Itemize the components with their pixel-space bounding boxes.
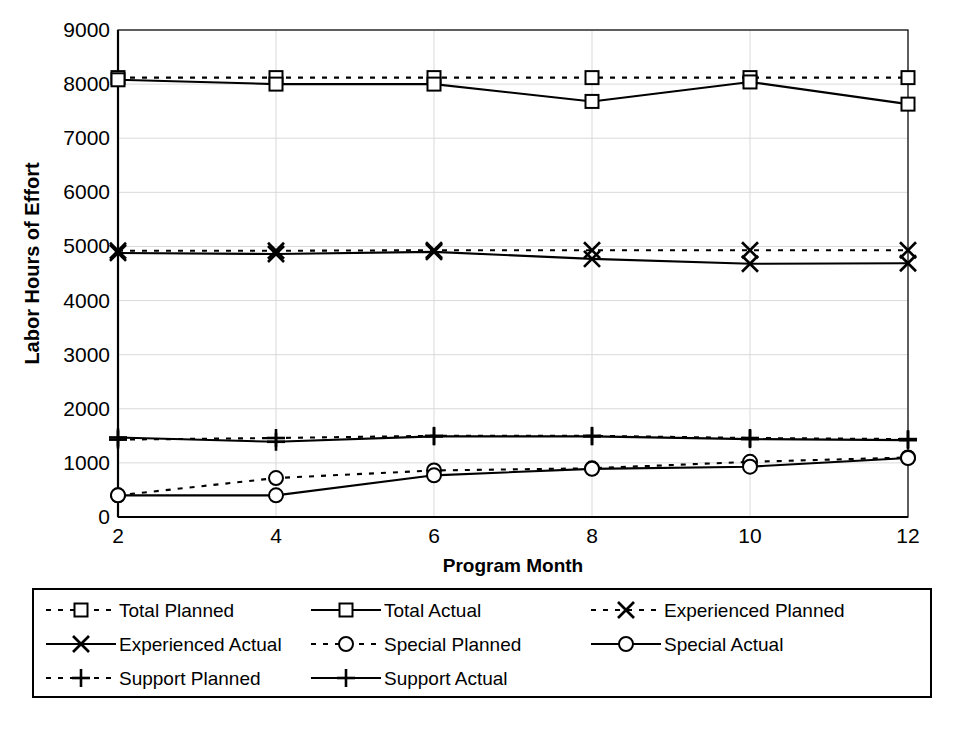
legend-label: Special Planned [383, 635, 521, 654]
legend-grid: Total PlannedTotal ActualExperienced Pla… [34, 590, 930, 696]
data-point [269, 471, 283, 485]
x-axis-title: Program Month [118, 555, 908, 577]
marker-circle [619, 637, 633, 651]
marker-circle [901, 451, 915, 465]
data-point [427, 468, 441, 482]
data-point [899, 431, 917, 449]
series-line [118, 80, 908, 104]
marker-square [428, 78, 441, 91]
marker-circle [585, 462, 599, 476]
series-experienced-actual [110, 244, 916, 272]
marker-circle [269, 471, 283, 485]
chart-legend: Total PlannedTotal ActualExperienced Pla… [32, 588, 932, 698]
x-tick-label: 6 [404, 525, 464, 546]
data-point [269, 488, 283, 502]
marker-square [586, 71, 599, 84]
data-point [270, 78, 283, 91]
data-point [111, 488, 125, 502]
marker-square [744, 75, 757, 88]
marker-circle [743, 460, 757, 474]
legend-marker-plus-icon [44, 664, 118, 692]
x-tick-label: 2 [88, 525, 148, 546]
legend-label: Special Actual [663, 635, 783, 654]
legend-marker [340, 604, 353, 617]
marker-square [586, 95, 599, 108]
legend-label: Support Planned [118, 669, 261, 688]
marker-circle [339, 637, 353, 651]
legend-item[interactable]: Special Planned [309, 628, 521, 660]
legend-marker-plus-icon [309, 664, 383, 692]
data-point [109, 428, 127, 446]
legend-item[interactable]: Experienced Actual [44, 628, 282, 660]
legend-item[interactable]: Special Actual [589, 628, 783, 660]
data-point [743, 460, 757, 474]
data-point [112, 73, 125, 86]
legend-item[interactable]: Support Planned [44, 662, 261, 694]
series-line [118, 436, 908, 441]
legend-marker-circle-icon [309, 630, 383, 658]
data-point [267, 433, 285, 451]
legend-marker [339, 637, 353, 651]
data-point [425, 427, 443, 445]
legend-marker-square-icon [44, 596, 118, 624]
marker-square [75, 604, 88, 617]
chart-figure: Labor Hours of Effort 010002000300040005… [0, 0, 968, 730]
legend-label: Total Actual [383, 601, 481, 620]
legend-label: Support Actual [383, 669, 508, 688]
legend-item[interactable]: Total Actual [309, 594, 481, 626]
marker-square [340, 604, 353, 617]
series-line [118, 458, 908, 495]
x-tick-label: 12 [878, 525, 938, 546]
data-point [902, 98, 915, 111]
legend-marker-circle-icon [589, 630, 663, 658]
legend-marker [337, 669, 355, 687]
legend-item[interactable]: Experienced Planned [589, 594, 845, 626]
data-point [901, 451, 915, 465]
marker-circle [427, 468, 441, 482]
data-point [741, 430, 759, 448]
data-point [585, 462, 599, 476]
legend-marker [72, 669, 90, 687]
marker-square [902, 98, 915, 111]
data-point [583, 427, 601, 445]
data-point [586, 71, 599, 84]
legend-marker-square-icon [309, 596, 383, 624]
data-point [586, 95, 599, 108]
x-tick-label: 10 [720, 525, 780, 546]
legend-marker-cross-x-icon [589, 596, 663, 624]
legend-label: Experienced Planned [663, 601, 845, 620]
x-axis-tick-labels: 24681012 [0, 525, 968, 555]
legend-marker [75, 604, 88, 617]
legend-item[interactable]: Total Planned [44, 594, 234, 626]
data-point [428, 78, 441, 91]
legend-label: Total Planned [118, 601, 234, 620]
plot-area [0, 0, 968, 580]
series-support-planned [109, 427, 917, 449]
marker-circle [269, 488, 283, 502]
series-special-actual [111, 451, 915, 502]
plot-frame [118, 30, 908, 517]
marker-circle [111, 488, 125, 502]
marker-square [902, 71, 915, 84]
data-point [744, 75, 757, 88]
legend-label: Experienced Actual [118, 635, 282, 654]
marker-square [270, 78, 283, 91]
data-point [902, 71, 915, 84]
x-tick-label: 4 [246, 525, 306, 546]
legend-marker-cross-x-icon [44, 630, 118, 658]
series-line [118, 250, 908, 251]
legend-marker [619, 637, 633, 651]
series-total-actual [112, 73, 915, 110]
x-tick-label: 8 [562, 525, 622, 546]
marker-square [112, 73, 125, 86]
series-line [118, 252, 908, 264]
legend-item[interactable]: Support Actual [309, 662, 508, 694]
